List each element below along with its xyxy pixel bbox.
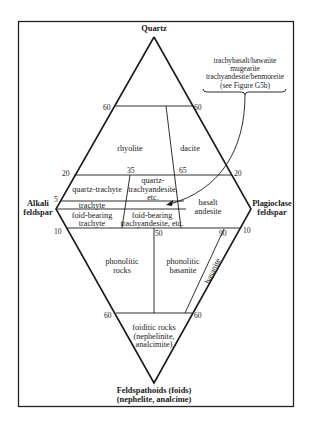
apex-plagioclase-2: feldspar <box>257 208 287 217</box>
field-trachyte: trachyte <box>79 201 106 210</box>
tick-90: 90 <box>219 229 227 238</box>
qapf-diagram: Quartz Alkali feldspar Plagioclase felds… <box>0 0 309 426</box>
field-dacite: dacite <box>180 144 200 153</box>
apex-feldspathoids-2: (nephelite, analcime) <box>117 395 192 404</box>
field-phonolitic-rocks-1: phonolitic <box>105 257 139 266</box>
tick-q20-right: 20 <box>234 169 242 178</box>
field-basalt-andesite-1: basalt <box>198 198 218 207</box>
note-line-3: trachyandesite/benmoreite <box>206 72 285 81</box>
apex-plagioclase-1: Plagioclase <box>252 199 292 208</box>
field-quartz-trachyte: quartz-trachyte <box>72 185 122 194</box>
tick-f60-left: 60 <box>104 311 112 320</box>
field-phonolitic-basanite-1: phonolitic <box>166 257 200 266</box>
field-basalt-andesite-2: andesite <box>195 207 222 216</box>
tick-q20-left: 20 <box>62 169 70 178</box>
field-rhyolite: rhyolite <box>117 144 143 153</box>
apex-feldspathoids-1: Feldspathoids (foids) <box>117 386 192 395</box>
apex-alkali-feldspar-1: Alkali <box>27 199 50 208</box>
field-foid-trachyandesite-2: trachyandesite, etc. <box>121 219 184 228</box>
field-quartz-trachyandesite-1: quartz- <box>141 176 164 185</box>
tick-50: 50 <box>155 229 163 238</box>
field-phonolitic-rocks-2: rocks <box>113 266 131 275</box>
field-basanite: basanite <box>203 257 223 285</box>
tick-f10-left: 10 <box>54 227 62 236</box>
apex-alkali-feldspar-2: feldspar <box>23 208 53 217</box>
tick-q5: 5 <box>54 195 58 204</box>
note-line-4: (see Figure G5b) <box>220 81 271 90</box>
tick-f60-right: 60 <box>194 311 202 320</box>
field-foiditic-3: analcimite) <box>136 340 173 349</box>
field-quartz-trachyandesite-3: etc. <box>147 193 159 202</box>
tick-65: 65 <box>179 166 187 175</box>
tick-q60-left: 60 <box>103 103 111 112</box>
field-foid-trachyte-2: trachyte <box>79 219 106 228</box>
apex-quartz: Quartz <box>141 24 167 33</box>
tick-q60-right: 60 <box>194 103 202 112</box>
tick-35: 35 <box>127 166 135 175</box>
tick-f10-right: 10 <box>243 226 251 235</box>
field-foiditic-1: foiditic rocks <box>132 323 175 332</box>
field-phonolitic-basanite-2: basanite <box>170 266 197 275</box>
